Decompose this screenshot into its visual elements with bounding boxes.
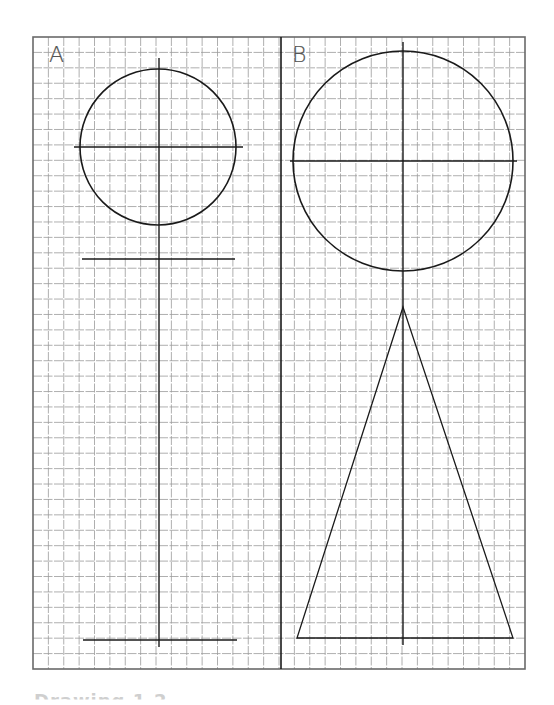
panel-b-triangle <box>297 307 513 638</box>
panel-b-label: B <box>292 44 306 66</box>
graph-paper-grid <box>33 37 525 669</box>
panel-a-label: A <box>49 44 64 66</box>
panel-b <box>290 42 517 645</box>
technical-drawing <box>0 0 554 705</box>
